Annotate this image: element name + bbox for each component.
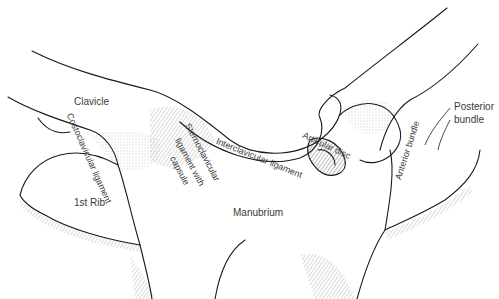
right-clavicle-outline <box>319 8 447 118</box>
label-posterior-bundle-line1: Posterior <box>454 102 494 112</box>
sternoclavicular-joint-illustration: Clavicle Costoclavicular ligament 1st Ri… <box>0 0 499 299</box>
label-posterior-bundle-line2: bundle <box>454 115 484 125</box>
label-clavicle: Clavicle <box>74 97 109 107</box>
label-first-rib: 1st Rib <box>74 198 105 208</box>
label-manubrium: Manubrium <box>233 208 283 218</box>
